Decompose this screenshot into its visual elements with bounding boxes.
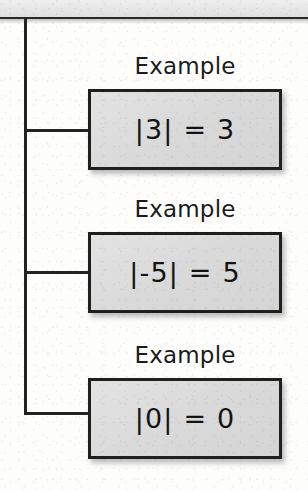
tree-trunk-line: [24, 17, 27, 415]
equation-text-2: |-5| = 5: [129, 257, 241, 288]
equation-text-3: |0| = 0: [135, 403, 236, 434]
branch-connector-2: [24, 271, 89, 274]
example-label-1: Example: [88, 53, 282, 79]
example-label-3: Example: [88, 342, 282, 368]
branch-connector-1: [24, 129, 89, 132]
top-gray-band: [0, 0, 308, 17]
example-box-1: |3| = 3: [88, 89, 282, 170]
example-box-3: |0| = 0: [88, 378, 282, 459]
branch-connector-3: [24, 412, 89, 415]
example-box-2: |-5| = 5: [88, 232, 282, 313]
equation-text-1: |3| = 3: [135, 114, 236, 145]
diagram-page: Example |3| = 3 Example |-5| = 5 Example…: [0, 0, 308, 491]
top-rule-shadow: [0, 19, 308, 24]
example-label-2: Example: [88, 196, 282, 222]
